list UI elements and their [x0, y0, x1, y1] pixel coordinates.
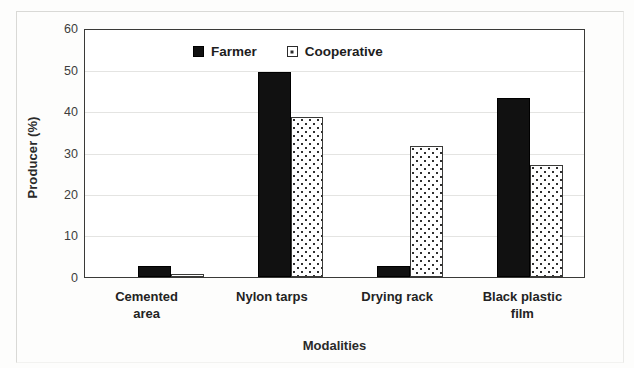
bar-farmer [138, 266, 171, 277]
x-axis-category-labels: CementedareaNylon tarpsDrying rackBlack … [84, 288, 585, 336]
y-tick-label: 30 [44, 147, 78, 161]
x-tick-label-line: film [460, 305, 585, 322]
bar-farmer [497, 98, 530, 277]
chart-figure: Producer (%) 60 50 40 30 20 10 0 Farmer … [0, 0, 634, 368]
bar-series-container [85, 30, 584, 277]
y-tick-label: 0 [44, 271, 78, 285]
y-tick-label: 60 [44, 22, 78, 36]
x-tick-label-line: area [84, 305, 209, 322]
bar-farmer [377, 266, 410, 277]
x-axis-title: Modalities [84, 338, 585, 353]
bar-farmer [258, 72, 291, 277]
bar-cooperative [530, 165, 563, 277]
bar-cooperative [410, 146, 443, 277]
x-tick-label-line: Black plastic [460, 288, 585, 305]
y-axis-tick-labels: 60 50 40 30 20 10 0 [40, 29, 78, 278]
y-tick-label: 50 [44, 64, 78, 78]
y-tick-label: 40 [44, 105, 78, 119]
x-tick-label: Nylon tarps [209, 288, 334, 305]
bar-cooperative [171, 274, 204, 277]
y-axis-title: Producer (%) [25, 63, 40, 253]
bar-cooperative [291, 117, 324, 277]
x-tick-label: Drying rack [335, 288, 460, 305]
y-tick-label: 20 [44, 188, 78, 202]
y-tick-label: 10 [44, 229, 78, 243]
bar-group [258, 30, 324, 277]
bar-group [377, 30, 443, 277]
plot-area: Farmer Cooperative [84, 29, 585, 278]
x-tick-label-line: Drying rack [335, 288, 460, 305]
x-tick-label: Cementedarea [84, 288, 209, 322]
x-tick-label-line: Nylon tarps [209, 288, 334, 305]
bar-group [138, 30, 204, 277]
bar-group [497, 30, 563, 277]
x-tick-label-line: Cemented [84, 288, 209, 305]
x-tick-label: Black plasticfilm [460, 288, 585, 322]
